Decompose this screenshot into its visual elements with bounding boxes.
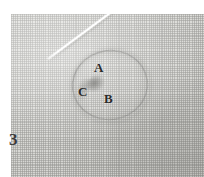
figure-panel: A B C 3	[0, 0, 204, 177]
annotation-label-c: C	[78, 85, 87, 98]
photograph: A B C	[11, 14, 204, 177]
annotation-label-a: A	[94, 61, 103, 74]
annotation-label-b: B	[104, 92, 113, 105]
panel-number: 3	[9, 131, 18, 148]
